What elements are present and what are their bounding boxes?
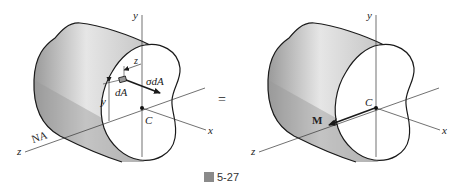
x-axis-label: x (207, 124, 213, 136)
figure-caption: 5-27 (204, 171, 239, 183)
figure-5-27: y x z NA C dA σdA y z = y x z C M (0, 0, 458, 192)
neutral-axis-label: NA (30, 129, 49, 145)
centroid-label: C (145, 114, 153, 126)
z-distance-label: z (133, 55, 138, 66)
dA-label: dA (115, 86, 128, 98)
equals-sign: = (218, 92, 226, 107)
y-distance-label: y (100, 95, 106, 107)
moment-label: M (312, 114, 323, 126)
y-axis-label: y (366, 9, 372, 21)
centroid-label: C (365, 96, 373, 108)
centroid-dot (140, 106, 144, 110)
z-axis-label: z (16, 145, 22, 157)
right-beam-diagram: y x z C M (250, 9, 447, 162)
caption-number: 5-27 (217, 171, 239, 183)
x-axis-label: x (441, 124, 447, 136)
z-axis-label: z (250, 145, 256, 157)
y-axis-label: y (132, 9, 138, 21)
sigma-dA-label: σdA (146, 75, 164, 87)
left-beam-diagram: y x z NA C dA σdA y z (16, 9, 213, 162)
caption-glyph-icon (204, 172, 214, 182)
